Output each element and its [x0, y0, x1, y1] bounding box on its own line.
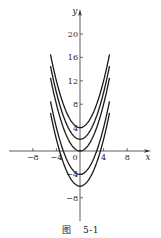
y-tick-label: 4 [73, 124, 78, 133]
tick-labels: −8−404820161284−4−8xy [27, 6, 151, 203]
y-axis-label: y [72, 6, 78, 16]
x-tick-label: −4 [51, 153, 63, 162]
y-tick-label: −8 [66, 194, 78, 203]
x-tick-label: 8 [125, 153, 130, 162]
y-tick-label: −4 [66, 170, 78, 179]
y-tick-label: 12 [68, 77, 78, 86]
y-tick-label: 20 [68, 30, 78, 39]
axes [9, 9, 151, 221]
caption-number: 5-1 [83, 225, 99, 235]
y-tick-label: 8 [73, 100, 78, 109]
y-tick-label: 16 [68, 53, 78, 62]
parabola-family-chart: −8−404820161284−4−8xy [0, 0, 161, 238]
caption-prefix: 图 [62, 223, 72, 236]
x-axis-label: x [146, 152, 151, 162]
x-tick-label: 0 [72, 153, 77, 162]
x-tick-label: −8 [27, 153, 39, 162]
figure-caption: 图 5-1 [0, 223, 161, 236]
x-tick-label: 4 [101, 153, 106, 162]
